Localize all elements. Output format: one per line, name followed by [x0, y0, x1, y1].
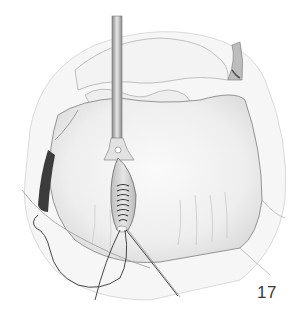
illustration-canvas: [0, 0, 298, 319]
figure-number: 17: [257, 283, 277, 303]
organ-surface: [50, 95, 262, 263]
